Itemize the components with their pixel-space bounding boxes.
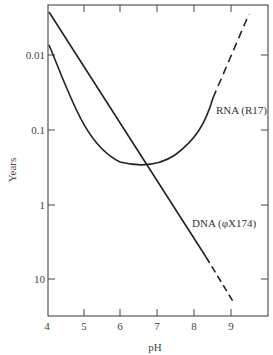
x-tick-4: 4 (44, 320, 50, 332)
dna-label: DNA (φX174) (192, 217, 256, 230)
x-tick-5: 5 (81, 320, 87, 332)
x-tick-6: 6 (117, 320, 123, 332)
y-tick-0.1: 0.1 (31, 124, 45, 136)
y-tick-0.01: 0.01 (26, 49, 45, 61)
rna-label: RNA (R17) (216, 104, 267, 117)
dna-line-dashed (206, 257, 234, 303)
x-tick-8: 8 (191, 320, 197, 332)
y-tick-10: 10 (34, 273, 46, 285)
dna-line-solid (49, 12, 206, 257)
y-axis-title: Years (6, 158, 18, 183)
x-tick-7: 7 (154, 320, 160, 332)
rna-curve-dashed (213, 14, 249, 98)
y-ticks (48, 55, 268, 279)
plot-frame (48, 5, 268, 316)
chart: 4 5 6 7 8 9 0.01 0.1 1 10 pH Years RNA (… (0, 0, 273, 355)
y-tick-1: 1 (40, 199, 46, 211)
rna-curve-solid (49, 45, 213, 165)
x-axis-title: pH (148, 341, 162, 353)
x-tick-9: 9 (228, 320, 234, 332)
x-ticks (84, 5, 231, 316)
